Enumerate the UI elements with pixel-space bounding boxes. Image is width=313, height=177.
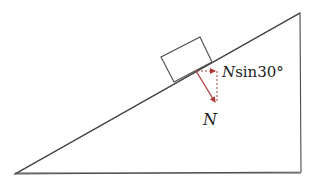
normal-force-label: N [202,110,218,129]
horizontal-component-label: Nsin30° [221,63,284,81]
block [161,37,212,82]
incline-diagram: Nsin30° N [0,0,313,177]
incline-surface [15,13,300,174]
normal-force-arrow [196,71,215,102]
